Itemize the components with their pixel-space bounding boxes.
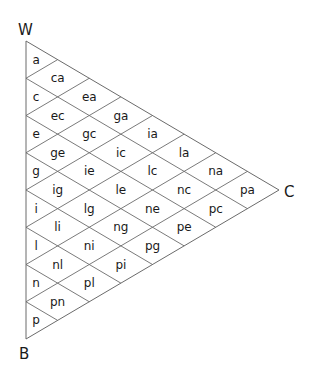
cell-label: pn — [50, 295, 65, 309]
cell-label: a — [32, 53, 39, 67]
cell-label: pc — [209, 202, 223, 216]
cell-label: ie — [84, 164, 95, 178]
cell-label: pi — [115, 258, 126, 272]
cell-label: g — [32, 164, 40, 178]
cell-label: c — [33, 90, 40, 104]
cell-label: nl — [52, 258, 63, 272]
cell-label: lc — [148, 164, 158, 178]
cell-label: ia — [147, 127, 158, 141]
cell-label: gc — [82, 127, 96, 141]
vertex-label-right: C — [284, 183, 294, 201]
cell-label: pe — [177, 220, 192, 234]
cell-label: ic — [116, 146, 126, 160]
cell-label: n — [32, 276, 40, 290]
ternary-diagram: acegilnpcaecgeiglinlpneagcielgniplgaicle… — [0, 0, 320, 379]
cell-label: ec — [51, 109, 65, 123]
cell-label: pa — [240, 183, 255, 197]
grid-line-down — [26, 227, 121, 283]
cell-label: ng — [113, 220, 128, 234]
cell-label: p — [32, 313, 40, 327]
cell-labels: acegilnpcaecgeiglinlpneagcielgniplgaicle… — [32, 53, 255, 328]
cell-label: na — [208, 164, 223, 178]
grid-line-down — [26, 153, 184, 246]
cell-label: lg — [84, 202, 95, 216]
cell-label: pg — [145, 239, 160, 253]
vertex-label-top: W — [18, 21, 33, 39]
cell-label: li — [54, 220, 61, 234]
cell-label: i — [34, 202, 37, 216]
cell-label: l — [34, 239, 37, 253]
cell-label: ea — [82, 90, 97, 104]
cell-label: pl — [84, 276, 95, 290]
cell-label: ni — [84, 239, 95, 253]
cell-label: ga — [113, 109, 128, 123]
cell-label: ge — [50, 146, 65, 160]
cell-label: ca — [51, 71, 65, 85]
grid-line-up — [26, 97, 121, 153]
cell-label: nc — [177, 183, 191, 197]
vertex-label-bottom: B — [19, 345, 29, 363]
cell-label: le — [116, 183, 127, 197]
cell-label: ne — [145, 202, 160, 216]
cell-label: ig — [52, 183, 63, 197]
cell-label: la — [179, 146, 190, 160]
cell-label: e — [32, 127, 39, 141]
